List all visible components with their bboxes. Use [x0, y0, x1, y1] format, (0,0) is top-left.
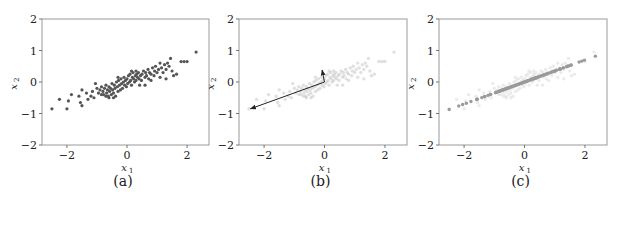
data-point	[146, 68, 149, 71]
data-point	[113, 84, 116, 87]
y-axis-label: x2	[8, 78, 21, 90]
data-point	[570, 74, 573, 77]
data-point	[356, 61, 359, 64]
data-point	[326, 79, 329, 82]
data-point	[277, 88, 280, 91]
data-point	[305, 90, 308, 93]
y-axis-label: x2	[205, 78, 218, 90]
data-point	[547, 79, 550, 82]
projected-point	[457, 104, 460, 107]
data-point	[100, 85, 103, 88]
data-point	[91, 90, 94, 93]
data-point	[85, 91, 88, 94]
y-tick-label: 1	[30, 45, 37, 58]
y-tick-label: −2	[218, 139, 234, 152]
data-point	[185, 60, 188, 63]
projected-point	[559, 67, 562, 70]
projected-point	[566, 64, 569, 67]
data-point	[166, 62, 169, 65]
data-point	[160, 66, 163, 69]
svg-text:2: 2	[210, 78, 218, 82]
data-point	[80, 88, 83, 91]
data-point	[267, 93, 270, 96]
y-tick-label: 0	[227, 76, 234, 89]
data-point	[172, 74, 175, 77]
panel-caption: (c)	[511, 173, 530, 189]
y-tick-label: −1	[21, 108, 37, 121]
data-point	[152, 74, 155, 77]
projected-point	[494, 91, 497, 94]
data-point	[476, 101, 479, 104]
data-point	[522, 85, 525, 88]
projected-point	[465, 102, 468, 105]
data-point	[317, 77, 320, 80]
svg-text:2: 2	[13, 78, 21, 82]
x-tick-label: −2	[59, 149, 75, 162]
data-point	[377, 60, 380, 63]
data-point	[80, 104, 83, 107]
data-point	[518, 87, 521, 90]
data-point	[573, 72, 576, 75]
data-point	[362, 68, 365, 71]
data-point	[474, 94, 477, 97]
data-point	[352, 65, 355, 68]
data-point	[182, 60, 185, 63]
data-point	[79, 101, 82, 104]
data-point	[151, 66, 154, 69]
data-point	[567, 57, 570, 60]
data-point	[58, 98, 61, 101]
projected-point	[554, 69, 557, 72]
x-axis-label: x	[319, 162, 325, 173]
data-point	[592, 50, 595, 53]
data-point	[493, 87, 496, 90]
data-point	[112, 91, 115, 94]
x-tick-label: −2	[456, 149, 472, 162]
data-point	[491, 82, 494, 85]
data-point	[95, 87, 98, 90]
projected-point	[530, 78, 533, 81]
data-point	[170, 69, 173, 72]
y-tick-label: −1	[418, 108, 434, 121]
x-axis-label: x	[519, 162, 525, 173]
data-point	[105, 91, 108, 94]
data-point	[490, 96, 493, 99]
data-point	[264, 99, 267, 102]
data-point	[561, 63, 564, 66]
projected-point	[469, 100, 472, 103]
x-tick-label: −2	[256, 149, 272, 162]
data-point	[145, 74, 148, 77]
projected-point	[516, 83, 519, 86]
data-point	[356, 76, 359, 79]
data-point	[527, 83, 530, 86]
data-point	[293, 87, 296, 90]
projected-point	[448, 108, 451, 111]
data-point	[559, 71, 562, 74]
data-point	[282, 91, 285, 94]
data-point	[276, 101, 279, 104]
y-tick-label: −2	[21, 139, 37, 152]
data-point	[297, 85, 300, 88]
data-point	[138, 84, 141, 87]
data-point	[392, 50, 395, 53]
data-point	[556, 76, 559, 79]
data-point	[544, 68, 547, 71]
data-point	[373, 72, 376, 75]
data-point	[455, 98, 458, 101]
data-point	[122, 76, 125, 79]
data-point	[149, 79, 152, 82]
data-point	[112, 96, 115, 99]
data-point	[125, 85, 128, 88]
data-point	[309, 91, 312, 94]
data-point	[104, 95, 107, 98]
data-point	[497, 93, 500, 96]
data-point	[564, 61, 567, 64]
y-tick-label: −1	[218, 108, 234, 121]
x-tick-label: 0	[124, 149, 131, 162]
data-point	[322, 85, 325, 88]
data-point	[550, 74, 553, 77]
data-point	[517, 77, 520, 80]
data-point	[336, 83, 339, 86]
data-point	[143, 84, 146, 87]
data-point	[341, 83, 344, 86]
data-point	[552, 65, 555, 68]
